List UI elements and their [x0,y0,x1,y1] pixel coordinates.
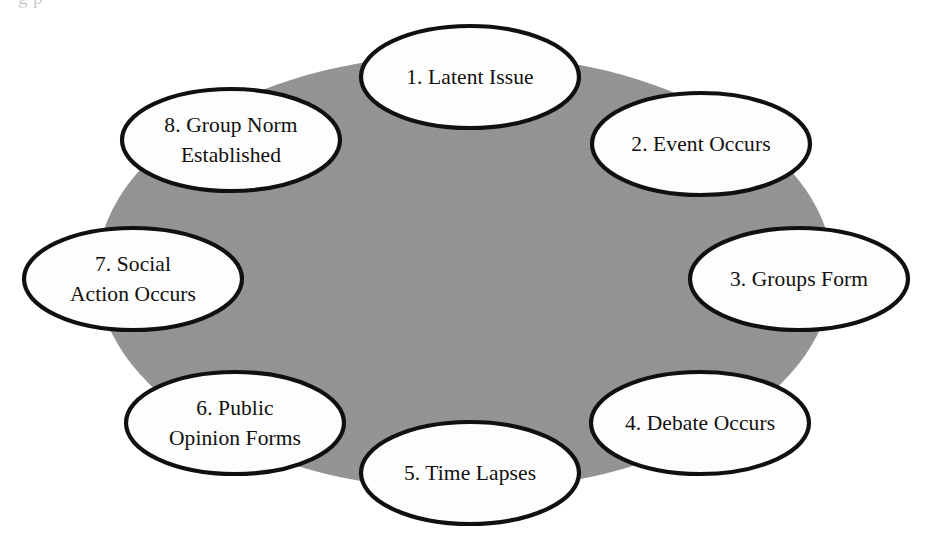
node-1-label-line-1: 1. Latent Issue [406,65,533,89]
node-2-event-occurs[interactable]: 2. Event Occurs [592,93,810,195]
node-6-ellipse[interactable] [126,372,344,474]
node-7-label-line-1: 7. Social [95,252,171,276]
node-5-time-lapses[interactable]: 5. Time Lapses [361,422,579,524]
diagram-canvas: g p 1. Latent Issue 2. Event [0,0,929,543]
node-6-label-line-1: 6. Public [196,396,273,420]
cycle-diagram: 1. Latent Issue 2. Event Occurs 3. Group… [0,0,929,543]
node-3-label-line-1: 3. Groups Form [730,267,868,291]
node-8-label-line-1: 8. Group Norm [164,113,297,137]
node-4-debate-occurs[interactable]: 4. Debate Occurs [591,372,809,474]
node-8-ellipse[interactable] [122,89,340,191]
node-7-social-action-occurs[interactable]: 7. Social Action Occurs [24,228,242,330]
node-6-public-opinion-forms[interactable]: 6. Public Opinion Forms [126,372,344,474]
node-4-label-line-1: 4. Debate Occurs [625,411,775,435]
node-5-label-line-1: 5. Time Lapses [404,461,536,485]
node-7-ellipse[interactable] [24,228,242,330]
node-6-label-line-2: Opinion Forms [169,426,301,450]
node-8-label-line-2: Established [181,143,281,167]
node-1-latent-issue[interactable]: 1. Latent Issue [361,26,579,128]
node-8-group-norm-established[interactable]: 8. Group Norm Established [122,89,340,191]
node-3-groups-form[interactable]: 3. Groups Form [690,228,908,330]
node-2-label-line-1: 2. Event Occurs [631,132,770,156]
node-7-label-line-2: Action Occurs [70,282,196,306]
